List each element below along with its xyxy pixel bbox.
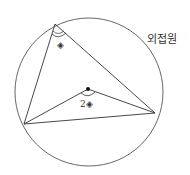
inscribed-triangle: [24, 24, 155, 124]
inscribed-angle-label: ◈: [57, 40, 64, 50]
inscribed-angle-arc-inner: [53, 31, 64, 34]
central-angle-symbol: ◈: [86, 99, 93, 109]
circumcircle-diagram: ◈ 2 ◈ 외접원: [0, 0, 190, 175]
central-angle-coefficient: 2: [80, 99, 86, 109]
central-angle-arc: [81, 92, 95, 96]
circumcircle: [15, 18, 163, 166]
radius-to-c: [88, 89, 155, 113]
center-point: [86, 87, 90, 91]
circumcircle-label: 외접원: [147, 33, 177, 46]
